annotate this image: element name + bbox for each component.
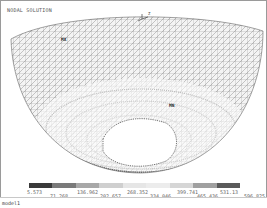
legend-swatch: [52, 183, 75, 188]
legend-label: 136.962: [77, 189, 98, 195]
divider: [0, 197, 267, 198]
legend-swatch: [99, 183, 122, 188]
legend-label: 5.573: [27, 189, 42, 195]
legend-swatch: [76, 183, 99, 188]
mesh-viewport[interactable]: Z MX MN: [1, 1, 266, 181]
model-label: model1: [2, 200, 20, 206]
legend-label: 71.268: [50, 193, 68, 199]
legend-label: 399.741: [177, 189, 198, 195]
max-marker: MX: [61, 37, 67, 42]
legend-label: 531.13: [220, 189, 238, 195]
legend-label: 596.825: [244, 193, 265, 199]
legend-label: 268.352: [127, 189, 148, 195]
graphics-window[interactable]: NODAL SOLUTION: [0, 0, 267, 198]
legend-swatch: [170, 183, 193, 188]
legend-label: 334.046: [150, 193, 171, 199]
contour-legend-bar: [29, 183, 240, 188]
legend-swatch: [29, 183, 52, 188]
legend-swatch: [123, 183, 146, 188]
legend-label: 465.436: [197, 193, 218, 199]
triad-z-label: Z: [148, 11, 151, 16]
legend-swatch: [193, 183, 216, 188]
min-marker: MN: [169, 103, 175, 108]
legend-swatch: [146, 183, 169, 188]
legend-swatch: [217, 183, 240, 188]
legend-label: 202.657: [100, 193, 121, 199]
